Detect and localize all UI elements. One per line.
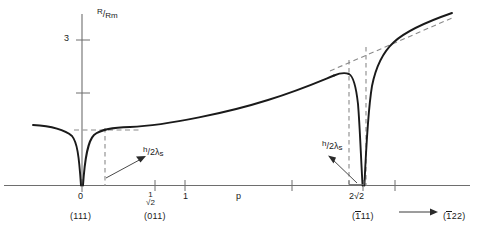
left-annot-sub: s: [159, 149, 163, 158]
left-annotation-arrow-shaft: [106, 158, 143, 178]
bar111-bar-digit: 1: [355, 212, 360, 221]
curve-left-branch: [33, 125, 81, 186]
y-axis-label-den: Rm: [105, 11, 117, 20]
tick-2sqrt2-radical: √2: [354, 191, 364, 201]
right-annotation-arrow-shaft: [331, 158, 357, 183]
invsqrt2-denominator: √2: [146, 199, 155, 207]
figure-container: R/Rm 3 0 1 √2 1 p 2√2 (111) (011) (111) …: [0, 0, 481, 232]
direction-label-bar122: (122): [443, 212, 466, 221]
curve-right-recovery: [364, 13, 452, 186]
x-tick-label-0: 0: [78, 192, 83, 201]
bar122-bar-digit: 1: [446, 212, 451, 221]
bar122-rest: 22): [452, 211, 466, 221]
annotation-left-h-over-2lambda-s: h/2λs: [143, 146, 163, 158]
x-tick-label-2sqrt2: 2√2: [349, 192, 364, 201]
y-axis-label: R/Rm: [97, 8, 118, 20]
miller-label-bar111: (111): [352, 212, 374, 221]
x-tick-label-one: 1: [183, 192, 188, 201]
annotation-right-h-over-2lambda-s: h/2λs: [322, 140, 342, 152]
miller-label-011: (011): [144, 212, 166, 221]
x-axis-label-p: p: [236, 192, 241, 201]
bar111-rest: 11): [361, 211, 374, 221]
y-tick-label-3: 3: [64, 34, 69, 43]
curve-right-approach: [334, 73, 363, 185]
x-tick-label-invsqrt2: 1 √2: [146, 190, 155, 207]
right-annot-sub: s: [338, 143, 342, 152]
miller-label-111: (111): [70, 212, 91, 221]
direction-arrowhead: [430, 209, 438, 216]
